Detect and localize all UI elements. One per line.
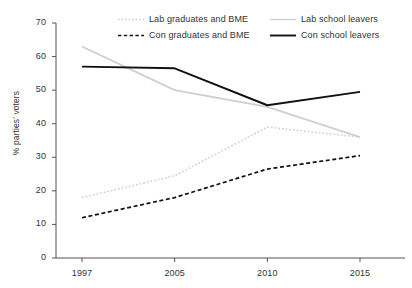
series-layer [82,47,360,218]
legend-label: Con school leavers [301,30,379,41]
x-axis-tick-label: 2010 [244,268,290,278]
legend-line-sample-icon [118,30,144,41]
y-axis-tick-label: 50 [20,84,46,94]
line-chart: % parties' voters 010203040506070 199720… [0,0,412,288]
y-axis-tick-label: 20 [20,185,46,195]
legend-line-sample-icon [270,14,296,25]
x-axis-tick-label: 2005 [152,268,198,278]
legend-row: Con graduates and BME Con school leavers [118,28,408,43]
legend-label: Lab graduates and BME [149,14,248,25]
y-axis-tick-label: 10 [20,218,46,228]
legend-line-sample-icon [270,30,296,41]
y-axis-tick-label: 30 [20,151,46,161]
legend-entry-con-graduates-and-bme[interactable]: Con graduates and BME [118,28,270,43]
axis-layer [52,23,405,262]
legend-entry-con-school-leavers[interactable]: Con school leavers [270,28,408,43]
y-axis-tick-label: 70 [20,17,46,27]
chart-legend: Lab graduates and BME Lab school leavers… [118,12,408,44]
series-line-con-graduates-and-bme [82,156,360,218]
legend-row: Lab graduates and BME Lab school leavers [118,12,408,27]
series-line-lab-school-leavers [82,47,360,138]
x-axis-tick-label: 1997 [59,268,105,278]
y-axis-tick-label: 60 [20,51,46,61]
y-axis-tick-label: 40 [20,118,46,128]
legend-entry-lab-school-leavers[interactable]: Lab school leavers [270,12,408,27]
x-axis-tick-label: 2015 [337,268,383,278]
y-axis-tick-label: 0 [20,252,46,262]
legend-label: Con graduates and BME [149,30,250,41]
series-line-lab-graduates-and-bme [82,127,360,198]
legend-entry-lab-graduates-and-bme[interactable]: Lab graduates and BME [118,12,270,27]
legend-label: Lab school leavers [301,14,378,25]
legend-line-sample-icon [118,14,144,25]
